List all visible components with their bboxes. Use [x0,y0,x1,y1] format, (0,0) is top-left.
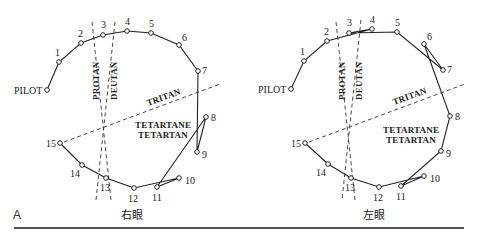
deutan-label: DEUTAN [354,61,364,100]
tritan-label: TRITAN [391,85,428,107]
cap-number-label: 8 [455,111,460,122]
cap-sequence-path [47,31,206,188]
cap-number-label: 6 [182,32,187,43]
cap-marker [155,185,160,190]
d15-figure: PROTAN DEUTAN TRITAN TETARTANE TETARTAN … [0,0,477,243]
cap-connection-polyline [47,31,206,188]
cap-number-label: 1 [55,47,60,58]
cap-marker [58,141,63,146]
cap-marker [196,69,201,74]
cap-connection-polyline [291,29,450,187]
cap-marker [347,31,352,36]
cap-number-label: 10 [430,173,440,184]
cap-marker [177,43,182,48]
cap-number-label: 8 [211,112,216,123]
cap-marker [302,59,307,64]
cap-number-label: 3 [347,17,352,28]
pilot-cap-marker [289,87,294,92]
cap-marker [325,39,330,44]
eye-label-left: 左眼 [363,209,385,221]
cap-marker [422,42,427,47]
cap-marker [204,115,209,120]
panel-label: A [13,208,21,222]
cap-marker [395,30,400,35]
cap-number-label: 13 [345,182,355,193]
panel-left-eye: PROTAN DEUTAN TRITAN TETARTANE TETARTAN … [258,14,465,221]
tetartan-label-2: TETARTAN [138,130,188,140]
cap-marker [349,176,354,181]
tetartan-label-2: TETARTAN [386,135,436,145]
cap-marker [441,68,446,73]
cap-marker [101,33,106,38]
cap-number-label: 12 [128,193,138,204]
cap-number-label: 15 [291,138,301,149]
cap-number-label: 7 [447,64,452,75]
deutan-label: DEUTAN [109,61,119,100]
cap-marker [104,176,109,181]
cap-marker [377,185,382,190]
deutan-axis-line [342,20,361,200]
cap-number-label: 5 [149,18,154,29]
cap-number-label: 12 [373,192,383,203]
cap-marker [177,176,182,181]
cap-marker [149,31,154,36]
cap-number-label: 3 [101,19,106,30]
cap-marker [448,114,453,119]
cap-number-label: 9 [202,149,207,160]
cap-number-label: 4 [370,14,375,25]
cap-marker [125,29,130,34]
cap-marker [326,162,331,167]
d15-diagram-svg: PROTAN DEUTAN TRITAN TETARTANE TETARTAN … [0,0,477,243]
cap-number-label: 9 [446,148,451,159]
cap-number-label: 6 [427,31,432,42]
protan-axis-line [92,22,111,200]
cap-marker [80,163,85,168]
cap-marker [57,60,62,65]
panel-right-eye: PROTAN DEUTAN TRITAN TETARTANE TETARTAN … [14,16,220,221]
cap-number-label: 1 [300,46,305,57]
cap-number-label: 14 [70,168,80,179]
cap-number-label: 14 [316,167,326,178]
cap-number-label: 4 [125,16,130,27]
protan-axis-line [336,22,355,200]
cap-number-label: 2 [324,26,329,37]
cap-number-label: 7 [202,65,207,76]
cap-marker [370,27,375,32]
protan-label: PROTAN [91,61,101,100]
deutan-axis-line [96,22,115,200]
pilot-cap-marker [45,88,50,93]
tetartan-label-1: TETARTANE [383,125,439,135]
pilot-label: PILOT [14,85,42,96]
cap-marker [399,184,404,189]
tetartan-label-1: TETARTANE [135,120,191,130]
cap-markers: PILOT123456789101112131415 [14,16,216,204]
cap-number-label: 5 [395,17,400,28]
cap-number-label: 13 [100,182,110,193]
pilot-label: PILOT [258,84,286,95]
cap-marker [132,186,137,191]
eye-label-right: 右眼 [121,208,143,221]
cap-number-label: 2 [78,28,83,39]
cap-number-label: 10 [185,175,195,186]
cap-marker [195,150,200,155]
cap-marker [422,174,427,179]
cap-marker [439,149,444,154]
protan-label: PROTAN [337,61,347,100]
cap-marker [303,141,308,146]
cap-number-label: 15 [46,138,56,149]
cap-number-label: 11 [396,191,406,202]
cap-number-label: 11 [152,192,162,203]
cap-marker [79,41,84,46]
cap-sequence-path [291,29,450,187]
